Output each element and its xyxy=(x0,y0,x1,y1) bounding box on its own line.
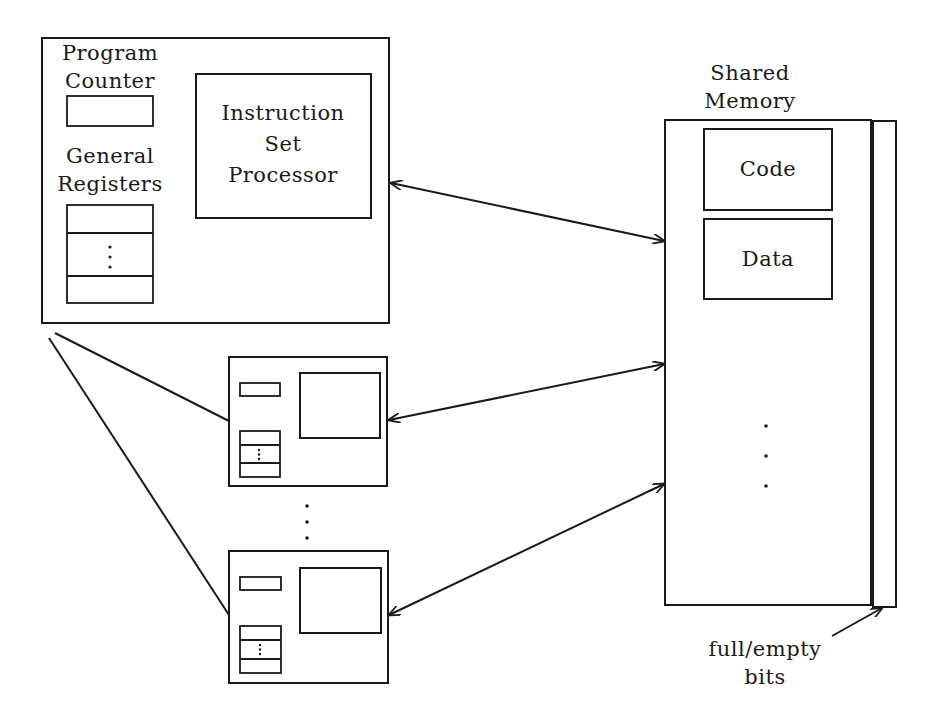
program-counter-register xyxy=(67,96,153,126)
processor-ellipsis xyxy=(305,504,309,540)
ellipsis-dot xyxy=(305,504,309,508)
processor-2-outline xyxy=(229,357,387,486)
full-empty-pointer-arrow xyxy=(832,608,882,636)
instruction-set-processor-box xyxy=(300,373,380,438)
general-registers-stack xyxy=(67,205,153,303)
shared-memory-title-line2: Memory xyxy=(704,89,795,113)
general-registers-label-line1: General xyxy=(66,144,154,168)
processor-2 xyxy=(229,357,387,486)
memory-ellipsis-dot xyxy=(764,484,768,488)
register-ellipsis-dot xyxy=(259,648,261,650)
general-registers-label-line2: Registers xyxy=(57,172,162,196)
data-segment-label: Data xyxy=(742,247,794,271)
bus-arrow-processor-1 xyxy=(391,183,664,241)
isp-label-line1: Instruction xyxy=(221,101,344,125)
code-segment-label: Code xyxy=(740,157,797,181)
ellipsis-dot xyxy=(305,536,309,540)
register-ellipsis-dot xyxy=(108,265,111,268)
register-ellipsis-dot xyxy=(258,453,260,455)
bus-arrow-processor-2 xyxy=(389,364,664,420)
processor-1: Program Counter General Registers Instru… xyxy=(42,38,389,323)
bus-arrow-processor-n xyxy=(389,484,664,615)
register-file-outline xyxy=(67,205,153,303)
program-counter-label-line2: Counter xyxy=(65,69,156,93)
program-counter-register xyxy=(240,577,281,590)
register-ellipsis-dot xyxy=(108,255,111,258)
register-ellipsis-dot xyxy=(259,644,261,646)
isp-label-line3: Processor xyxy=(228,163,338,187)
register-ellipsis-dot xyxy=(258,458,260,460)
program-counter-label-line1: Program xyxy=(62,41,158,65)
full-empty-label-line2: bits xyxy=(744,665,785,689)
register-ellipsis-dot xyxy=(258,449,260,451)
processor-n-outline xyxy=(229,551,388,683)
expansion-line-to-processor-2 xyxy=(55,333,229,421)
memory-ellipsis-dot xyxy=(764,454,768,458)
full-empty-label-line1: full/empty xyxy=(709,637,822,661)
register-ellipsis-dot xyxy=(108,245,111,248)
diagram-canvas: Program Counter General Registers Instru… xyxy=(0,0,933,714)
instruction-set-processor-box xyxy=(300,568,381,633)
memory-ellipsis-dot xyxy=(764,424,768,428)
register-ellipsis-dot xyxy=(259,653,261,655)
processor-n xyxy=(229,551,388,683)
shared-memory-title-line1: Shared xyxy=(710,61,789,85)
full-empty-bits-strip xyxy=(873,121,896,607)
program-counter-register xyxy=(240,383,280,396)
expansion-line-to-processor-n xyxy=(49,338,229,615)
ellipsis-dot xyxy=(305,520,309,524)
shared-memory-outline xyxy=(665,120,871,605)
shared-memory: Shared Memory Code Data xyxy=(665,61,896,607)
isp-label-line2: Set xyxy=(265,132,302,156)
